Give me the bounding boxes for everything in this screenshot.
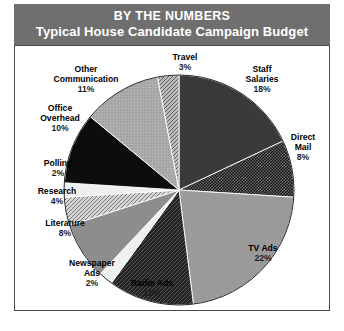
pie-label-newspaper-ads: Newspaper Ads 2%	[63, 258, 121, 288]
pie-label-research: Research 4%	[27, 186, 87, 206]
pie-label-newspaper-ads-pct: 2%	[63, 278, 121, 288]
pie-label-direct-mail-line1: Direct	[291, 132, 315, 142]
pie-label-office-overhead-line2: Overhead	[29, 113, 91, 123]
pie-label-radio-ads-text: Radio Ads	[131, 278, 173, 288]
pie-label-radio-ads-pct: 12%	[121, 288, 183, 298]
pie-label-office-overhead-line1: Office	[48, 103, 72, 113]
chart-header-band: BY THE NUMBERS Typical House Candidate C…	[14, 4, 330, 45]
pie-label-tv-ads-text: TV Ads	[248, 243, 277, 253]
pie-label-travel-text: Travel	[173, 52, 198, 62]
chart-plot-area: Travel 3% Staff Salaries 18% Direct Mail…	[14, 45, 330, 311]
pie-label-research-pct: 4%	[27, 196, 87, 206]
pie-label-literature-text: Literature	[45, 218, 85, 228]
pie-label-other-communication: Other Communication 11%	[43, 64, 129, 94]
pie-label-travel-pct: 3%	[157, 62, 213, 72]
chart-title-main: BY THE NUMBERS	[114, 9, 230, 24]
pie-label-polling: Polling 2%	[31, 158, 85, 178]
pie-label-other-communication-pct: 11%	[43, 84, 129, 94]
pie-label-newspaper-ads-line2: Ads	[63, 268, 121, 278]
chart-figure: BY THE NUMBERS Typical House Candidate C…	[14, 4, 330, 311]
pie-label-other-communication-line2: Communication	[43, 74, 129, 84]
pie-label-staff-salaries-line1: Staff	[252, 64, 271, 74]
chart-title-sub: Typical House Candidate Campaign Budget	[36, 24, 308, 40]
pie-label-staff-salaries-line2: Salaries	[233, 74, 291, 84]
pie-label-direct-mail-pct: 8%	[281, 152, 325, 162]
pie-label-polling-text: Polling	[44, 158, 73, 168]
pie-label-literature-pct: 8%	[34, 228, 96, 238]
pie-label-other-communication-line1: Other	[75, 64, 98, 74]
pie-label-travel: Travel 3%	[157, 52, 213, 72]
pie-label-polling-pct: 2%	[31, 168, 85, 178]
pie-label-staff-salaries-pct: 18%	[233, 84, 291, 94]
pie-label-office-overhead-pct: 10%	[29, 123, 91, 133]
pie-chart: Travel 3% Staff Salaries 18% Direct Mail…	[15, 46, 329, 310]
pie-label-tv-ads: TV Ads 22%	[235, 243, 291, 263]
pie-label-newspaper-ads-line1: Newspaper	[69, 258, 115, 268]
pie-label-staff-salaries: Staff Salaries 18%	[233, 64, 291, 94]
pie-label-tv-ads-pct: 22%	[235, 253, 291, 263]
pie-label-research-text: Research	[38, 186, 77, 196]
pie-label-office-overhead: Office Overhead 10%	[29, 103, 91, 133]
pie-label-direct-mail-line2: Mail	[281, 142, 325, 152]
pie-label-radio-ads: Radio Ads 12%	[121, 278, 183, 298]
pie-label-literature: Literature 8%	[34, 218, 96, 238]
pie-label-direct-mail: Direct Mail 8%	[281, 132, 325, 162]
